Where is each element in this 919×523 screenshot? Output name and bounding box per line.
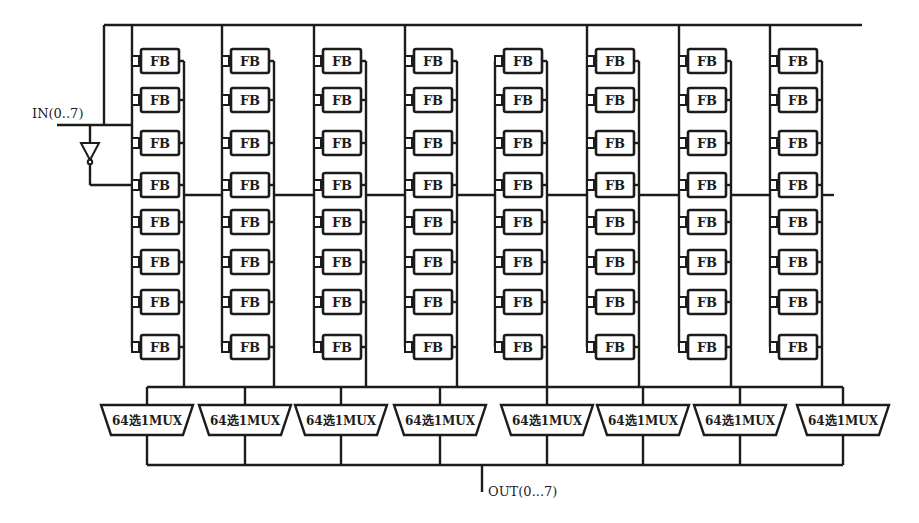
mux-row: 64选1MUX64选1MUX64选1MUX64选1MUX64选1MUX64选1M… [101,405,889,435]
fb-array-diagram: FBFBFBFBFBFBFBFBFBFBFBFBFBFBFBFBFBFBFBFB… [0,0,919,523]
fb-input-port [314,138,321,148]
function-block: FB [679,210,731,234]
mux-64-to-1: 64选1MUX [597,405,689,435]
fb-label: FB [423,54,443,69]
fb-input-port [495,342,502,352]
mux-label: 64选1MUX [306,413,377,428]
mux-label: 64选1MUX [112,413,183,428]
fb-label: FB [788,178,808,193]
fb-label: FB [788,255,808,270]
fb-input-port [405,56,412,66]
buffer-icon [81,143,99,160]
fb-input-port [770,138,777,148]
function-block: FB [587,173,639,197]
function-block: FB [222,88,274,112]
fb-label: FB [423,340,443,355]
fb-input-port [495,217,502,227]
input-label: IN(0..7) [32,106,83,121]
fb-input-port [314,95,321,105]
function-block: FB [222,173,274,197]
function-block: FB [405,88,457,112]
fb-input-port [587,297,594,307]
fb-label: FB [513,178,533,193]
fb-label: FB [150,255,170,270]
function-block: FB [222,210,274,234]
fb-input-port [495,180,502,190]
fb-input-port [314,56,321,66]
mux-64-to-1: 64选1MUX [295,405,387,435]
fb-label: FB [332,93,352,108]
fb-input-port [770,217,777,227]
fb-label: FB [788,93,808,108]
function-block: FB [587,131,639,155]
fb-input-port [587,342,594,352]
fb-input-port [132,342,139,352]
fb-label: FB [150,136,170,151]
mux-label: 64选1MUX [705,413,776,428]
fb-label: FB [513,215,533,230]
fb-label: FB [513,340,533,355]
fb-input-port [495,297,502,307]
fb-label: FB [332,136,352,151]
fb-label: FB [150,178,170,193]
function-block: FB [314,210,366,234]
fb-label: FB [240,255,260,270]
fb-label: FB [788,54,808,69]
fb-input-port [222,138,229,148]
mux-label: 64选1MUX [512,413,583,428]
fb-label: FB [150,215,170,230]
function-block: FB [495,250,547,274]
function-block: FB [132,49,184,73]
fb-input-port [132,95,139,105]
function-block: FB [314,49,366,73]
fb-input-port [314,257,321,267]
fb-label: FB [240,215,260,230]
fb-label: FB [240,54,260,69]
function-block: FB [495,88,547,112]
fb-label: FB [332,54,352,69]
function-block: FB [222,335,274,359]
fb-label: FB [788,295,808,310]
fb-label: FB [697,93,717,108]
fb-input-port [132,180,139,190]
function-block: FB [314,290,366,314]
function-block: FB [132,290,184,314]
fb-label: FB [423,93,443,108]
function-block: FB [405,210,457,234]
fb-label: FB [605,295,625,310]
fb-label: FB [423,178,443,193]
fb-label: FB [513,136,533,151]
fb-input-port [405,297,412,307]
fb-label: FB [605,255,625,270]
function-block: FB [132,335,184,359]
mux-label: 64选1MUX [808,413,879,428]
fb-label: FB [697,54,717,69]
fb-label: FB [332,340,352,355]
function-block: FB [587,335,639,359]
function-block: FB [405,290,457,314]
fb-input-port [679,56,686,66]
fb-label: FB [697,178,717,193]
function-block: FB [770,49,822,73]
function-block: FB [222,250,274,274]
function-block: FB [314,131,366,155]
mux-64-to-1: 64选1MUX [394,405,486,435]
function-block: FB [132,210,184,234]
fb-input-port [132,138,139,148]
fb-input-port [132,56,139,66]
function-block: FB [770,250,822,274]
fb-label: FB [240,340,260,355]
fb-label: FB [150,93,170,108]
function-block: FB [770,88,822,112]
fb-input-port [222,217,229,227]
fb-input-port [495,257,502,267]
function-block: FB [587,88,639,112]
fb-input-port [679,257,686,267]
mux-label: 64选1MUX [210,413,281,428]
fb-label: FB [332,295,352,310]
fb-input-port [405,257,412,267]
fb-label: FB [240,136,260,151]
fb-input-port [770,180,777,190]
fb-input-port [679,95,686,105]
fb-input-port [405,180,412,190]
